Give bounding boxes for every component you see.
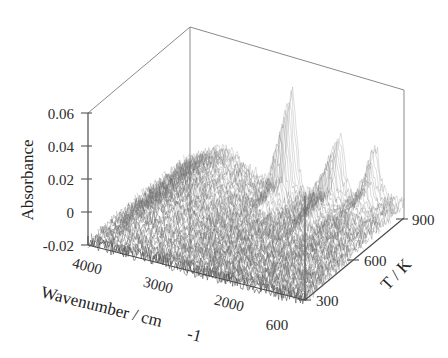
z-tick-label-600: 600 <box>364 253 387 269</box>
x-tick-label-3000: 3000 <box>142 274 175 297</box>
y-tick-label-3: 0 <box>67 205 75 221</box>
z-tick-label-300: 300 <box>316 293 339 309</box>
labels-layer: 0.06 0.04 0.02 0 -0.02 Absorbance 4000 3… <box>0 0 448 358</box>
y-tick-label-4: -0.02 <box>43 238 74 254</box>
absorbance-axis-title: Absorbance <box>18 139 37 220</box>
x-tick-label-4000: 4000 <box>71 255 104 278</box>
x-tick-label-600: 600 <box>266 317 289 333</box>
figure-canvas: 0.06 0.04 0.02 0 -0.02 Absorbance 4000 3… <box>0 0 448 358</box>
wavenumber-axis-title-sub: -1 <box>185 324 203 346</box>
y-tick-label-2: 0.02 <box>48 172 74 188</box>
z-tick-label-900: 900 <box>412 212 435 228</box>
y-tick-label-1: 0.04 <box>48 139 75 155</box>
y-tick-label-0: 0.06 <box>48 106 75 122</box>
x-tick-label-2000: 2000 <box>213 292 246 315</box>
